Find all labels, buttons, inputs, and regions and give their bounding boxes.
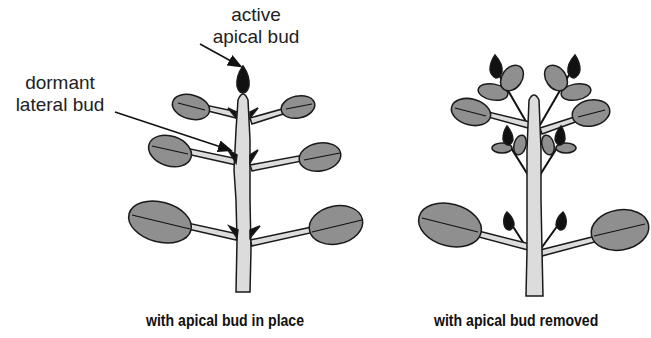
active-apical-bud-icon bbox=[237, 66, 249, 93]
plant-with-apical-bud bbox=[124, 66, 366, 292]
leaf-icon bbox=[170, 90, 213, 123]
lateral-bud-icon bbox=[250, 150, 258, 163]
apical-dominance-diagram bbox=[0, 0, 651, 338]
apical-bud-pointer-arrow bbox=[200, 44, 240, 66]
leaf-icon bbox=[570, 96, 613, 129]
left-plant-stem bbox=[234, 94, 251, 292]
right-plant-stem bbox=[526, 95, 543, 296]
active-bud-icon bbox=[556, 212, 566, 230]
caption-apical-bud-in-place: with apical bud in place bbox=[146, 312, 304, 330]
plant-without-apical-bud bbox=[414, 55, 651, 296]
active-bud-icon bbox=[490, 55, 502, 78]
lateral-bud-icon bbox=[250, 226, 260, 238]
active-bud-icon bbox=[568, 55, 580, 78]
active-bud-icon bbox=[504, 212, 514, 230]
caption-apical-bud-removed: with apical bud removed bbox=[434, 312, 598, 330]
leaf-icon bbox=[540, 134, 557, 156]
leaf-icon bbox=[512, 134, 529, 156]
active-bud-icon bbox=[503, 126, 513, 145]
leaf-icon bbox=[306, 201, 367, 249]
